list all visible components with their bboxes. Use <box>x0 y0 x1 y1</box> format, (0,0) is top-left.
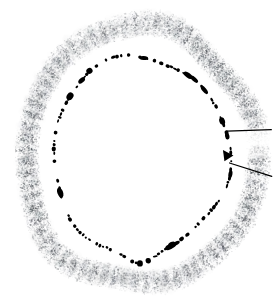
contour-segment <box>201 215 207 221</box>
contour-segment <box>81 233 85 237</box>
contour-segment <box>230 160 232 162</box>
contour-segment <box>207 211 211 215</box>
contour-segment <box>95 242 99 246</box>
contour-segment <box>67 214 71 218</box>
contour-segment <box>214 104 219 110</box>
contour-segment <box>184 232 190 238</box>
contour-segment <box>75 228 79 232</box>
contour-segment <box>153 255 158 258</box>
incision-line <box>229 163 271 176</box>
contour-segment <box>210 97 214 102</box>
contour-segment <box>178 236 185 242</box>
contour-segment <box>165 64 170 69</box>
contour-segment <box>101 245 104 248</box>
contour-segment <box>226 181 229 184</box>
contour-segment <box>137 260 143 266</box>
contour-segment <box>51 146 56 151</box>
contour-segment <box>53 140 56 142</box>
contour-segment <box>130 259 134 263</box>
contour-segment <box>211 101 215 104</box>
contour-segment <box>122 255 127 259</box>
contour-segment <box>59 112 62 116</box>
contour-segment <box>52 159 56 163</box>
contour-vector-layer <box>0 0 280 305</box>
contour-segment <box>65 91 75 101</box>
contour-segment <box>57 119 60 123</box>
contour-segment <box>98 243 102 248</box>
contour-segment <box>53 151 55 155</box>
contour-segment <box>60 108 65 112</box>
contour-segment <box>88 238 92 242</box>
contour-segment <box>104 58 107 62</box>
contour-segment <box>176 68 181 73</box>
contour-segment <box>156 252 160 255</box>
contour-segment <box>115 54 120 59</box>
contour-segment <box>229 147 231 151</box>
contour-segment <box>145 258 151 264</box>
contour-segment <box>67 216 73 222</box>
contour-segment <box>53 130 57 134</box>
contour-segment <box>169 65 173 69</box>
contour-segment <box>194 225 197 228</box>
contour-segment <box>159 61 164 66</box>
contour-segment <box>119 253 123 256</box>
contour-segment <box>72 224 77 229</box>
contour-segment <box>75 85 79 89</box>
contour-segment <box>53 143 56 146</box>
contour-segment <box>225 183 228 188</box>
contour-segment <box>94 64 99 69</box>
contour-segment <box>160 250 164 253</box>
contour-segment <box>56 178 60 183</box>
contour-segment <box>58 116 62 120</box>
contour-segment <box>152 58 156 62</box>
contour-segment <box>127 53 131 57</box>
contour-segment <box>105 246 108 249</box>
contour-segment <box>108 248 112 252</box>
incision-line <box>227 130 271 131</box>
contour-segment <box>196 222 201 227</box>
broken-dark-contour <box>51 53 233 266</box>
contour-segment <box>120 54 123 58</box>
cross-section-figure: Transverse cross-section micrograph Circ… <box>0 0 280 305</box>
contour-segment <box>84 236 87 239</box>
